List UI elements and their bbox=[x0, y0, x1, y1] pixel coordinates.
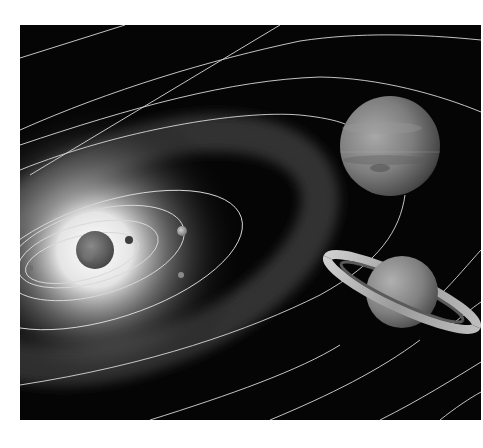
planet-earth bbox=[177, 226, 187, 236]
planet-venus bbox=[125, 236, 133, 244]
solar-system-illustration bbox=[0, 0, 483, 448]
planet-mercury bbox=[27, 265, 33, 271]
planet-mars bbox=[178, 272, 184, 278]
sun bbox=[76, 231, 114, 269]
planet-jupiter bbox=[340, 96, 440, 196]
